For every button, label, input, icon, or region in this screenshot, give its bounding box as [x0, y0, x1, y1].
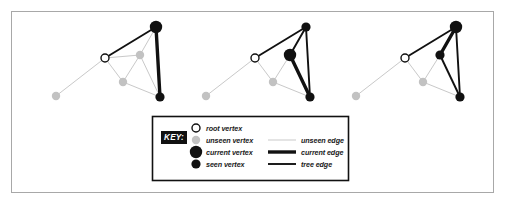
legend-edge-label: tree edge — [301, 160, 332, 169]
seen-vertex — [155, 92, 164, 101]
legend-edge-label: current edge — [301, 148, 343, 157]
legend-vertex-label: current vertex — [206, 148, 254, 157]
unseen-vertex — [352, 92, 360, 100]
unseen-vertex — [119, 78, 127, 86]
seen-vertex — [435, 50, 444, 59]
legend-vertex-label: seen vertex — [206, 160, 246, 169]
legend-layer: KEY:root vertexunseen vertexcurrent vert… — [153, 117, 349, 181]
unseen-vertex-marker — [192, 136, 200, 144]
legend-vertex-item-3: current vertex — [190, 146, 254, 158]
unseen-vertex — [419, 78, 427, 86]
root-vertex — [251, 54, 259, 62]
unseen-vertex — [52, 92, 60, 100]
unseen-vertex — [269, 78, 277, 86]
seen-vertex — [455, 92, 464, 101]
seen-vertex — [301, 22, 310, 31]
legend-edge-label: unseen edge — [301, 136, 344, 145]
key-badge-label: KEY: — [164, 133, 184, 142]
root-vertex — [101, 54, 109, 62]
seen-vertex-marker — [191, 159, 200, 168]
current-vertex — [450, 21, 462, 33]
legend-vertex-label: root vertex — [206, 124, 243, 133]
figure-canvas: KEY:root vertexunseen vertexcurrent vert… — [0, 0, 505, 204]
root-vertex — [401, 54, 409, 62]
root-vertex-marker — [192, 124, 200, 132]
current-vertex — [284, 49, 296, 61]
current-vertex-marker — [190, 146, 202, 158]
unseen-vertex — [202, 92, 210, 100]
unseen-vertex — [136, 51, 144, 59]
current-vertex — [150, 21, 162, 33]
legend-vertex-label: unseen vertex — [206, 136, 254, 145]
figure-root: KEY:root vertexunseen vertexcurrent vert… — [0, 0, 505, 204]
seen-vertex — [305, 92, 314, 101]
